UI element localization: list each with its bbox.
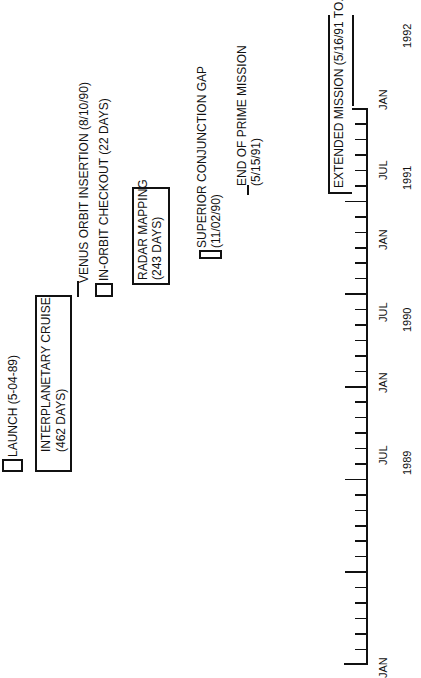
month-tick [355,278,367,280]
voi-marker [77,281,79,297]
major-tick [345,479,367,481]
month-tick [355,154,367,156]
month-label-jan-1989: JAN [377,657,389,678]
extended-bar-right [352,15,354,106]
year-label-1989: 1989 [401,451,413,475]
month-tick [355,432,367,434]
month-tick [355,216,367,218]
month-tick [355,139,367,141]
month-tick [355,618,367,620]
month-tick [355,232,367,234]
month-tick [355,556,367,558]
voi-label: VENUS ORBIT INSERTION (8/10/90) [78,82,91,283]
month-tick [355,262,367,264]
extended-label: EXTENDED MISSION (5/16/91 TO...) [333,0,346,188]
month-tick [355,340,367,342]
month-tick [355,494,367,496]
month-label-jul-1991: JUL [377,160,389,180]
month-tick [355,401,367,403]
month-tick [355,448,367,450]
checkout-bar [95,283,113,297]
scg-label-line1: SUPERIOR CONJUNCTION GAP [196,66,209,248]
end-prime-marker [247,185,249,195]
cruise-label-line2: (462 DAYS) [55,389,68,452]
month-tick [355,463,367,465]
month-tick [355,649,367,651]
scg-bar [199,250,222,259]
launch-marker [2,459,23,472]
extended-bar-left [328,15,330,194]
month-label-jan-1992: JAN [377,89,389,110]
launch-label: LAUNCH (5-04-89) [7,355,20,457]
end-prime-label-line2: (5/15/91) [250,138,263,186]
end-prime-label-line1: END OF PRIME MISSION [236,45,249,186]
month-tick [355,525,367,527]
month-tick [355,540,367,542]
year-label-1992: 1992 [401,24,413,48]
axis-top-cap [352,108,368,110]
radar-label-line1: RADAR MAPPING [137,179,150,280]
year-label-1991: 1991 [401,166,413,190]
month-label-jan-1991: JAN [377,229,389,250]
cruise-label-line1: INTERPLANETARY CRUISE [40,297,53,452]
radar-label-line2: (243 DAYS) [151,217,164,280]
axis-base [344,663,368,665]
year-label-1990: 1990 [401,308,413,332]
month-tick [355,185,367,187]
major-tick [345,201,367,203]
month-label-jul-1989: JUL [377,445,389,465]
month-tick [355,355,367,357]
month-tick [355,587,367,589]
major-tick [345,293,367,295]
month-tick [355,633,367,635]
month-tick [355,510,367,512]
month-tick [355,309,367,311]
month-tick [355,123,367,125]
month-tick [355,170,367,172]
checkout-label: IN-ORBIT CHECKOUT (22 DAYS) [98,98,111,281]
month-label-jul-1990: JUL [377,302,389,322]
month-label-jan-1990: JAN [377,372,389,393]
month-tick [355,324,367,326]
major-tick [345,386,367,388]
month-tick [355,371,367,373]
month-tick [355,417,367,419]
scg-label-line2: (11/02/90) [210,194,223,248]
month-tick [355,247,367,249]
extended-bar-bottom [328,192,352,194]
major-tick [345,571,367,573]
month-tick [355,602,367,604]
